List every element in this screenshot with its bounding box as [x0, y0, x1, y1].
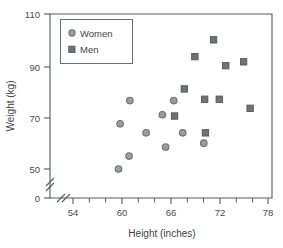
y-tick-label-90: 90 — [29, 62, 40, 73]
data-point-women — [170, 97, 177, 104]
data-point-men — [223, 62, 229, 68]
legend-label-women: Women — [80, 28, 113, 39]
y-axis-ticks — [44, 14, 50, 198]
data-point-women — [159, 111, 166, 118]
x-tick-label-72: 72 — [215, 207, 226, 218]
x-tick-label-54: 54 — [68, 207, 79, 218]
data-point-men — [181, 86, 187, 92]
y-tick-label-70: 70 — [29, 113, 40, 124]
y-tick-label-0: 0 — [35, 193, 40, 204]
data-point-men — [202, 130, 208, 136]
data-point-women — [115, 166, 122, 173]
data-point-men — [201, 96, 207, 102]
scatter-plot-figure: 110 90 70 50 0 54 60 66 72 78 — [0, 0, 283, 248]
y-tick-label-50: 50 — [29, 164, 40, 175]
data-point-men — [240, 59, 246, 65]
data-point-women — [117, 120, 124, 127]
x-tick-label-60: 60 — [117, 207, 128, 218]
data-point-men — [192, 53, 198, 59]
data-point-men — [171, 113, 177, 119]
data-point-women — [162, 144, 169, 151]
legend-box — [61, 20, 133, 64]
data-point-men — [216, 96, 222, 102]
data-point-women — [179, 130, 186, 137]
data-point-men — [247, 105, 253, 111]
data-point-women — [127, 97, 134, 104]
legend-circle-marker — [69, 30, 75, 36]
y-tick-label-110: 110 — [25, 9, 40, 20]
data-points-layer — [115, 37, 253, 173]
data-point-women — [126, 153, 133, 160]
x-tick-label-66: 66 — [166, 207, 177, 218]
y-axis-title: Weight (kg) — [5, 81, 16, 132]
legend-square-marker — [69, 46, 75, 52]
data-point-men — [210, 37, 216, 43]
x-tick-label-78: 78 — [263, 207, 274, 218]
data-point-women — [143, 130, 150, 137]
chart-canvas: 110 90 70 50 0 54 60 66 72 78 — [0, 0, 283, 248]
legend-label-men: Men — [80, 44, 98, 55]
legend: Women Men — [61, 20, 133, 64]
data-point-women — [201, 140, 208, 147]
x-axis-title: Height (inches) — [128, 228, 195, 239]
x-axis-major-ticks — [73, 198, 268, 204]
